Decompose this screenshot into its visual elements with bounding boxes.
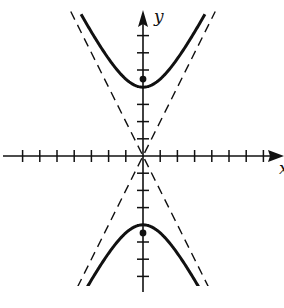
focus-lower-dot bbox=[140, 229, 147, 236]
axes bbox=[3, 10, 284, 292]
y-axis-label: y bbox=[153, 6, 164, 26]
focus-upper-dot bbox=[140, 76, 147, 83]
x-axis-label: x bbox=[279, 158, 284, 178]
hyperbola-diagram: y x bbox=[0, 0, 284, 308]
